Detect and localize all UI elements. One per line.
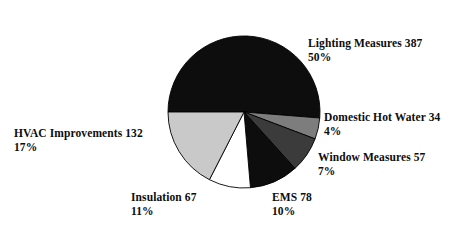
slice-label-ems: EMS 78 10% [272,190,312,218]
slice-percent-text: 11% [131,204,197,218]
slice-percent-text: 17% [14,140,143,154]
pie-slice-group [168,36,320,188]
slice-label-domestic-hot-water: Domestic Hot Water 34 4% [324,110,440,138]
slice-percent-text: 4% [324,124,440,138]
slice-label-text: EMS 78 [272,191,312,203]
slice-label-text: Domestic Hot Water 34 [324,111,440,123]
slice-percent-text: 10% [272,204,312,218]
slice-label-text: Lighting Measures 387 [308,37,422,49]
pie-chart-figure: Lighting Measures 387 50% Domestic Hot W… [0,0,465,234]
slice-label-text: Window Measures 57 [318,151,425,163]
slice-label-window-measures: Window Measures 57 7% [318,150,425,178]
slice-label-hvac-improvements: HVAC Improvements 132 17% [14,126,143,154]
slice-label-lighting-measures: Lighting Measures 387 50% [308,36,422,64]
slice-percent-text: 50% [308,50,422,64]
slice-percent-text: 7% [318,164,425,178]
slice-label-text: HVAC Improvements 132 [14,127,143,139]
slice-label-text: Insulation 67 [131,191,197,203]
slice-label-insulation: Insulation 67 11% [131,190,197,218]
pie-slice-lighting-measures[interactable] [168,36,320,118]
